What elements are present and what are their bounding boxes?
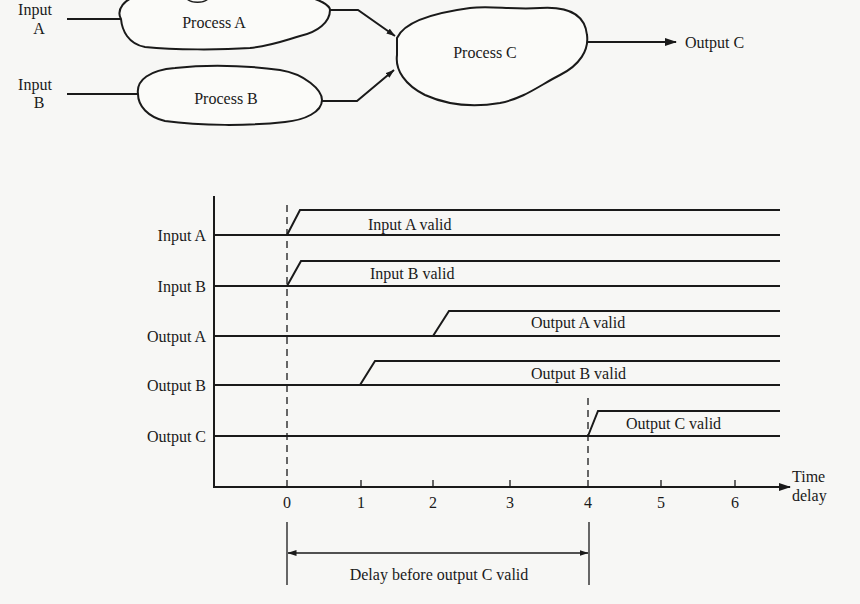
svg-text:Output B valid: Output B valid [531, 365, 626, 383]
x-tick-labels: 0 1 2 3 4 5 6 [283, 494, 739, 511]
timing-chart: 0 1 2 3 4 5 6 Time delay Input A Input A… [147, 196, 827, 585]
svg-text:Output A valid: Output A valid [531, 314, 625, 332]
signal-output-a: Output A Output A valid [147, 311, 780, 346]
svg-text:Input: Input [18, 1, 52, 19]
connector-a-to-c [330, 10, 395, 36]
svg-text:6: 6 [731, 494, 739, 511]
process-c-label: Process C [453, 44, 517, 61]
delay-annotation: Delay before output C valid [287, 522, 589, 585]
svg-text:Output A: Output A [147, 328, 207, 346]
svg-text:Input A: Input A [158, 227, 207, 245]
svg-text:Time: Time [792, 468, 825, 485]
svg-text:Input A valid: Input A valid [368, 216, 452, 234]
connector-b-to-c [322, 70, 394, 101]
signal-input-b: Input B Input B valid [158, 261, 780, 296]
svg-text:0: 0 [283, 494, 291, 511]
output-c-label: Output C [685, 34, 744, 52]
input-b-label: Input B [18, 76, 52, 111]
svg-text:A: A [33, 20, 45, 37]
process-b-label: Process B [194, 90, 258, 107]
svg-text:4: 4 [584, 494, 592, 511]
svg-text:B: B [34, 94, 45, 111]
svg-text:Input B: Input B [158, 278, 206, 296]
svg-text:2: 2 [429, 494, 437, 511]
flow-diagram: Input A Process A Input B Process B Proc… [18, 0, 744, 125]
svg-text:1: 1 [357, 494, 365, 511]
signal-output-c: Output C Output C valid [147, 411, 780, 446]
svg-text:Delay before output C valid: Delay before output C valid [350, 566, 529, 584]
signal-output-b: Output B Output B valid [147, 361, 780, 395]
svg-text:delay: delay [792, 487, 827, 505]
svg-text:Output C: Output C [147, 428, 206, 446]
x-axis-label: Time delay [792, 468, 827, 505]
input-a-label: Input A [18, 1, 52, 37]
x-ticks [287, 480, 735, 487]
svg-text:Input: Input [18, 76, 52, 94]
svg-text:5: 5 [657, 494, 665, 511]
svg-text:Output B: Output B [147, 377, 206, 395]
svg-text:Output C valid: Output C valid [626, 415, 721, 433]
timing-diagram: Input A Process A Input B Process B Proc… [0, 0, 860, 604]
svg-text:Input B valid: Input B valid [370, 265, 454, 283]
signal-input-a: Input A Input A valid [158, 210, 780, 245]
process-a-label: Process A [182, 14, 246, 31]
svg-text:3: 3 [506, 494, 514, 511]
